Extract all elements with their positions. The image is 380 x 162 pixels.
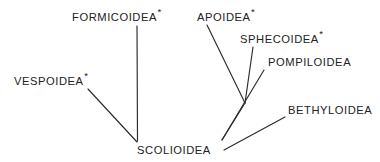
taxon-label-vespoidea: VESPOIDEA * <box>14 70 88 88</box>
taxon-label-sphecoidea-text: SPHECOIDEA <box>240 33 319 45</box>
taxon-label-formicoidea: FORMICOIDEA * <box>72 6 162 24</box>
taxon-label-formicoidea-text: FORMICOIDEA <box>72 11 157 23</box>
asterisk-icon-formicoidea: * <box>158 6 162 17</box>
taxon-label-pompiloidea-text: POMPILOIDEA <box>268 56 351 68</box>
taxon-label-sphecoidea: SPHECOIDEA * <box>240 28 323 46</box>
branch-apoidea-sphecoidea-stem <box>222 103 245 140</box>
taxon-label-bethyloidea: BETHYLOIDEA <box>288 104 372 116</box>
asterisk-icon-apoidea: * <box>251 6 255 17</box>
taxon-labels-group: FORMICOIDEA * APOIDEA * SPHECOIDEA * POM… <box>14 6 372 157</box>
taxon-label-bethyloidea-text: BETHYLOIDEA <box>288 104 372 116</box>
branch-formicoidea <box>137 26 138 141</box>
taxon-label-apoidea-text: APOIDEA <box>197 11 251 23</box>
taxon-label-scolioidea: SCOLIOIDEA <box>137 144 211 156</box>
cladogram-canvas: FORMICOIDEA * APOIDEA * SPHECOIDEA * POM… <box>0 0 380 162</box>
cladogram-diagram: FORMICOIDEA * APOIDEA * SPHECOIDEA * POM… <box>0 0 380 162</box>
taxon-label-pompiloidea: POMPILOIDEA <box>268 56 351 68</box>
branch-vespoidea <box>88 89 137 142</box>
taxon-label-apoidea: APOIDEA * <box>197 6 255 24</box>
taxon-label-scolioidea-text: SCOLIOIDEA <box>137 144 211 156</box>
asterisk-icon-vespoidea: * <box>84 70 88 81</box>
taxon-label-vespoidea-text: VESPOIDEA <box>14 75 84 87</box>
asterisk-icon-sphecoidea: * <box>319 28 323 39</box>
